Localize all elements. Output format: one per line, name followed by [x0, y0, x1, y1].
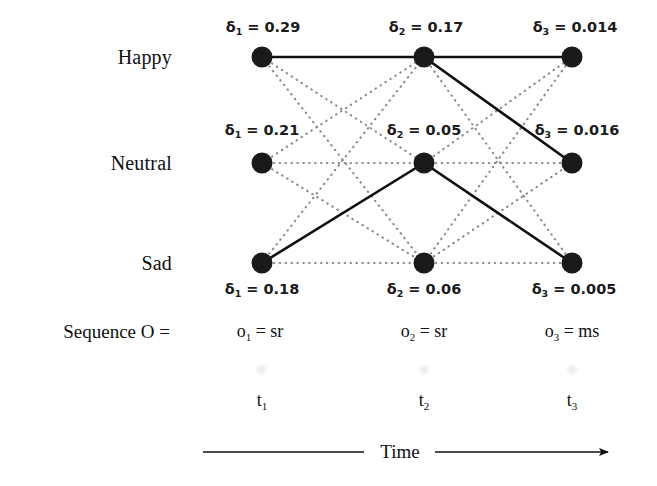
node-neutral-t2: [414, 153, 435, 174]
delta-value: = 0.18: [241, 281, 299, 297]
tick-subscript: 2: [424, 400, 430, 412]
delta-sad-t2: δ2 = 0.06: [387, 281, 462, 299]
observation-var: o: [401, 321, 410, 341]
delta-subscript: 1: [235, 288, 242, 299]
node-happy-t2: [414, 47, 435, 68]
delta-happy-t1: δ1 = 0.29: [226, 19, 301, 37]
delta-value: = 0.016: [551, 122, 619, 138]
delta-symbol: δ: [535, 122, 545, 138]
delta-symbol: δ: [533, 19, 543, 35]
time-tick-t2: t2: [419, 390, 430, 411]
delta-value: = 0.05: [403, 122, 461, 138]
delta-symbol: δ: [387, 122, 397, 138]
trellis-canvas: [0, 0, 657, 486]
node-sad-t3: [562, 253, 583, 274]
node-neutral-t1: [252, 153, 273, 174]
delta-sad-t1: δ1 = 0.18: [225, 281, 300, 299]
delta-value: = 0.17: [405, 19, 463, 35]
delta-value: = 0.29: [242, 19, 300, 35]
delta-symbol: δ: [532, 281, 542, 297]
sequence-header: Sequence O =: [63, 321, 170, 343]
delta-subscript: 2: [399, 26, 406, 37]
delta-symbol: δ: [225, 122, 235, 138]
observation-value: = sr: [251, 321, 283, 341]
backpointer-edge: [424, 163, 572, 263]
observation-value: = ms: [559, 321, 599, 341]
time-axis-caption: Time: [380, 441, 419, 463]
delta-symbol: δ: [225, 281, 235, 297]
delta-symbol: δ: [226, 19, 236, 35]
tick-subscript: 1: [262, 400, 268, 412]
node-happy-t1: [252, 47, 273, 68]
delta-subscript: 3: [545, 129, 552, 140]
observation-var: o: [237, 321, 246, 341]
tick-subscript: 3: [572, 400, 578, 412]
delta-neutral-t1: δ1 = 0.21: [225, 122, 300, 140]
state-label-neutral: Neutral: [111, 152, 172, 175]
delta-neutral-t3: δ3 = 0.016: [535, 122, 620, 140]
time-tick-t1: t1: [257, 390, 268, 411]
delta-neutral-t2: δ2 = 0.05: [387, 122, 462, 140]
delta-value: = 0.014: [549, 19, 617, 35]
delta-subscript: 3: [542, 288, 549, 299]
delta-value: = 0.21: [241, 122, 299, 138]
node-sad-t2: [414, 253, 435, 274]
delta-happy-t2: δ2 = 0.17: [389, 19, 464, 37]
observation-t1: o1 = sr: [237, 321, 284, 342]
node-neutral-t3: [562, 153, 583, 174]
delta-subscript: 1: [235, 129, 242, 140]
delta-subscript: 2: [397, 288, 404, 299]
transition-edges-t2-t3: [424, 57, 572, 263]
observation-t2: o2 = sr: [401, 321, 448, 342]
observation-var: o: [545, 321, 554, 341]
scan-artifact: ◉: [418, 361, 429, 376]
delta-value: = 0.005: [548, 281, 616, 297]
trellis-figure: Happy Neutral Sad δ1 = 0.29 δ2 = 0.17 δ3…: [0, 0, 657, 486]
state-label-sad: Sad: [141, 252, 172, 275]
delta-sad-t3: δ3 = 0.005: [532, 281, 617, 299]
node-sad-t1: [252, 253, 273, 274]
delta-subscript: 2: [397, 129, 404, 140]
delta-subscript: 1: [236, 26, 243, 37]
delta-symbol: δ: [387, 281, 397, 297]
scan-artifact: ◉: [255, 361, 266, 376]
observation-value: = sr: [415, 321, 447, 341]
scan-artifact: ◉: [566, 361, 577, 376]
transition-edges-t1-t2: [262, 57, 424, 263]
delta-subscript: 3: [543, 26, 550, 37]
delta-value: = 0.06: [403, 281, 461, 297]
observation-t3: o3 = ms: [545, 321, 600, 342]
node-happy-t3: [562, 47, 583, 68]
delta-happy-t3: δ3 = 0.014: [533, 19, 618, 37]
time-tick-t3: t3: [567, 390, 578, 411]
delta-symbol: δ: [389, 19, 399, 35]
state-label-happy: Happy: [118, 46, 172, 69]
